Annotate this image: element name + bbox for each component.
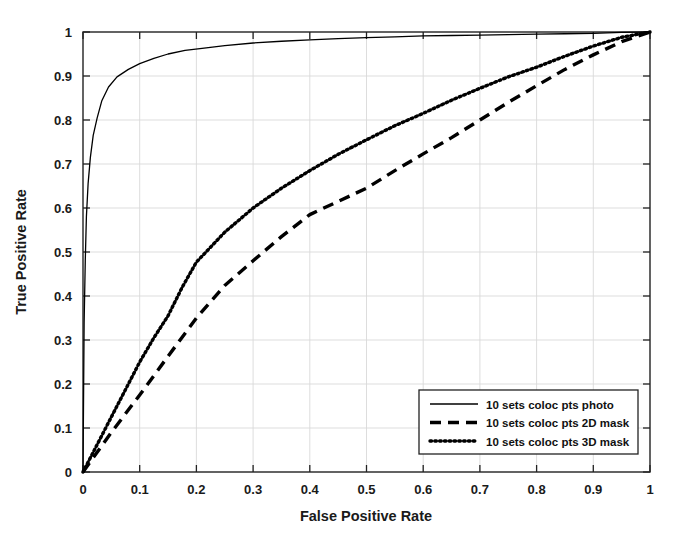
x-tick-label: 0.2	[187, 482, 205, 497]
figure-background	[0, 0, 686, 543]
x-tick-label: 0.8	[528, 482, 546, 497]
x-tick-label: 0.6	[414, 482, 432, 497]
y-tick-label: 0.4	[54, 289, 73, 304]
x-tick-label: 1	[646, 482, 653, 497]
y-tick-label: 0.3	[54, 333, 72, 348]
x-tick-label: 0.4	[301, 482, 320, 497]
y-tick-label: 0.6	[54, 201, 72, 216]
y-tick-label: 0.7	[54, 157, 72, 172]
x-tick-label: 0.7	[471, 482, 489, 497]
roc-plot-svg: 00.10.20.30.40.50.60.70.80.91 00.10.20.3…	[0, 0, 686, 543]
x-tick-label: 0.9	[584, 482, 602, 497]
y-tick-label: 0.1	[54, 421, 72, 436]
x-tick-label: 0.3	[244, 482, 262, 497]
legend-label: 10 sets coloc pts 3D mask	[486, 436, 630, 448]
y-tick-label: 0	[65, 465, 72, 480]
x-tick-label: 0.1	[131, 482, 149, 497]
y-tick-label: 0.5	[54, 245, 72, 260]
roc-chart-figure: 00.10.20.30.40.50.60.70.80.91 00.10.20.3…	[0, 0, 686, 543]
x-tick-label: 0	[79, 482, 86, 497]
x-axis-label: False Positive Rate	[300, 508, 432, 524]
y-tick-label: 1	[65, 25, 72, 40]
y-axis-label: True Positive Rate	[13, 189, 29, 315]
legend[interactable]: 10 sets coloc pts photo10 sets coloc pts…	[419, 390, 638, 454]
legend-label: 10 sets coloc pts 2D mask	[486, 417, 630, 429]
x-tick-label: 0.5	[357, 482, 375, 497]
legend-label: 10 sets coloc pts photo	[486, 399, 614, 411]
y-tick-label: 0.2	[54, 377, 72, 392]
y-tick-label: 0.8	[54, 113, 72, 128]
y-tick-label: 0.9	[54, 69, 72, 84]
